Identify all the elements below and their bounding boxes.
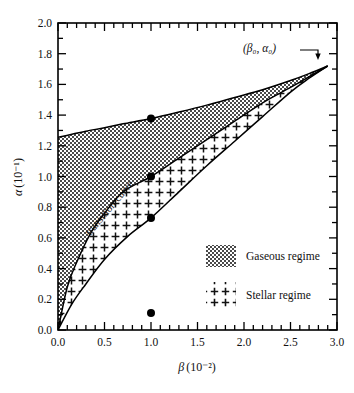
x-tick-label: 2.0 <box>237 336 252 348</box>
legend-swatch-stellar <box>206 282 236 308</box>
legend-label-gaseous: Gaseous regime <box>246 250 320 263</box>
legend-swatch-gaseous <box>206 245 236 267</box>
convergence-point-label: (β₀, α₀) <box>243 42 276 55</box>
marker-axis <box>147 309 155 317</box>
y-axis-tick-labels: 0.00.20.40.60.81.01.21.41.61.82.0 <box>38 17 53 336</box>
y-tick-label: 1.6 <box>38 78 53 90</box>
y-tick-label: 0.2 <box>38 293 53 305</box>
x-tick-label: 0.5 <box>97 336 112 348</box>
svg-text:α(10⁻¹): α(10⁻¹) <box>11 158 25 196</box>
x-tick-label: 3.0 <box>330 336 345 348</box>
figure-container: 0.00.51.01.52.02.53.0 0.00.20.40.60.81.0… <box>0 0 354 393</box>
y-tick-label: 0.4 <box>38 263 53 275</box>
y-axis-title: α(10⁻¹) <box>11 158 25 196</box>
marker-upper <box>147 114 155 122</box>
y-tick-label: 1.2 <box>38 140 53 152</box>
chart-plot: 0.00.51.01.52.02.53.0 0.00.20.40.60.81.0… <box>0 0 354 393</box>
x-tick-label: 2.5 <box>283 336 298 348</box>
y-axis-title-unit: (10⁻¹) <box>11 158 25 188</box>
x-tick-label: 1.5 <box>190 336 205 348</box>
y-tick-label: 0.0 <box>38 324 53 336</box>
y-axis-title-symbol: α <box>11 189 25 196</box>
x-tick-label: 0.0 <box>51 336 66 348</box>
legend-label-stellar: Stellar regime <box>246 289 311 302</box>
marker-lower <box>147 214 155 222</box>
y-tick-label: 0.8 <box>38 201 53 213</box>
x-axis-title-symbol: β <box>177 360 184 374</box>
x-axis-title: β(10⁻²) <box>177 360 216 374</box>
y-tick-label: 2.0 <box>38 17 53 29</box>
x-tick-label: 1.0 <box>144 336 159 348</box>
y-tick-label: 1.0 <box>38 171 53 183</box>
y-tick-label: 1.8 <box>38 48 53 60</box>
y-tick-label: 0.6 <box>38 232 53 244</box>
y-tick-label: 1.4 <box>38 109 53 121</box>
x-axis-tick-labels: 0.00.51.01.52.02.53.0 <box>51 336 345 348</box>
svg-text:β(10⁻²): β(10⁻²) <box>177 360 216 374</box>
marker-transition <box>147 173 155 181</box>
x-axis-title-unit: (10⁻²) <box>186 360 216 374</box>
